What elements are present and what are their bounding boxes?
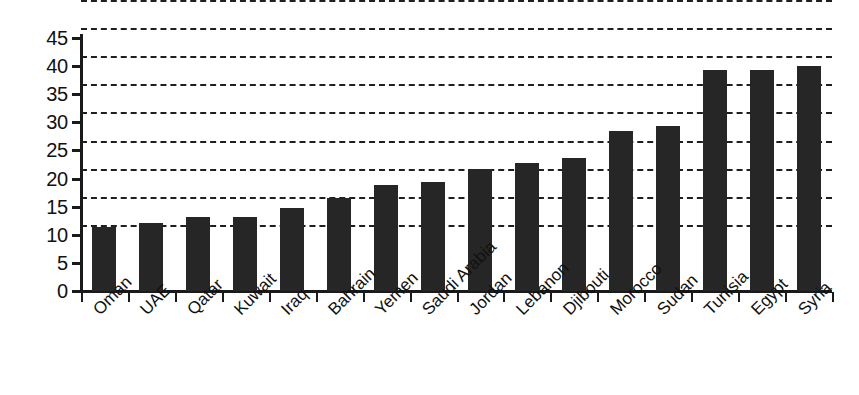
bar (515, 163, 539, 291)
bar (421, 182, 445, 291)
bar (327, 198, 351, 291)
bar (280, 208, 304, 291)
y-axis-tick-label: 20 (24, 169, 68, 189)
bar-chart: 454035302520151050 OmanUAEQatarKuwaitIra… (0, 0, 859, 395)
plot-area (81, 38, 832, 291)
y-axis-tick-label: 25 (24, 140, 68, 160)
gridline (81, 28, 832, 30)
y-axis-tick-label: 35 (24, 84, 68, 104)
x-axis-tick-mark (128, 292, 130, 302)
x-axis-tick-mark (269, 292, 271, 302)
y-axis-tick-label: 15 (24, 197, 68, 217)
x-axis-tick-mark (222, 292, 224, 302)
y-axis-tick-label: 10 (24, 225, 68, 245)
bar (750, 70, 774, 292)
y-axis-tick-label: 40 (24, 56, 68, 76)
bar (609, 131, 633, 291)
x-axis-tick-mark (316, 292, 318, 302)
y-axis-tick-label: 30 (24, 112, 68, 132)
y-axis-tick-label: 5 (24, 253, 68, 273)
y-axis-tick-label: 0 (24, 281, 68, 301)
gridline (81, 0, 832, 2)
y-axis-labels: 454035302520151050 (18, 0, 68, 395)
y-axis-tick-label: 45 (24, 28, 68, 48)
bar (703, 70, 727, 291)
x-axis-tick-mark (81, 292, 83, 302)
x-axis-tick-mark (175, 292, 177, 302)
bar (797, 66, 821, 291)
